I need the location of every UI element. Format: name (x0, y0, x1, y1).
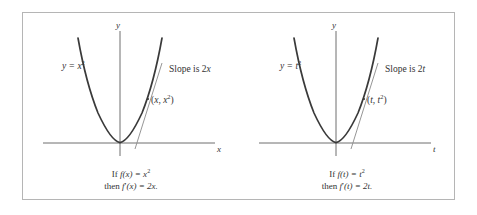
axis-label-horizontal-right: t (433, 145, 436, 154)
tangent-line-left (135, 63, 162, 149)
caption-left-line1-prefix: If (112, 169, 120, 179)
caption-right-line2: then f′(t) = 2t. (239, 180, 455, 192)
caption-left-line2-rest: (x) = 2x. (126, 181, 157, 191)
point-label-right-close: ) (383, 95, 386, 105)
slope-annotation-left-variable: x (206, 64, 210, 74)
caption-left-line1-arg: (x) = x (123, 169, 148, 179)
caption-left-line1: If f(x) = x2 (23, 165, 239, 180)
caption-right-line1-prefix: If (329, 169, 337, 179)
panel-right: y t y = t2 Slope is 2t (t, t2) If f(t) =… (239, 13, 455, 199)
slope-annotation-right-prefix: Slope is 2 (385, 64, 422, 74)
axis-label-vertical-right: y (332, 21, 336, 30)
caption-right-line2-rest: (t) = 2t. (344, 181, 372, 191)
caption-right-line1: If f(t) = t2 (239, 165, 455, 180)
slope-annotation-left: Slope is 2x (169, 65, 211, 75)
point-label-right: (t, t2) (367, 94, 387, 106)
curve-label-left-base: y = x (62, 61, 82, 71)
slope-annotation-right-variable: t (422, 64, 425, 74)
slope-annotation-left-prefix: Slope is 2 (169, 64, 206, 74)
slope-annotation-right: Slope is 2t (385, 65, 425, 75)
caption-left: If f(x) = x2 then f′(x) = 2x. (23, 165, 239, 192)
tangent-point-marker-right (363, 98, 365, 100)
figure-root: y x y = x2 Slope is 2x (x, x2) If f(x) =… (0, 0, 477, 215)
figure-frame: y x y = x2 Slope is 2x (x, x2) If f(x) =… (22, 12, 455, 200)
curve-label-left-exponent: 2 (82, 59, 85, 66)
axis-label-horizontal-left: x (217, 145, 221, 154)
caption-left-line2: then f′(x) = 2x. (23, 180, 239, 192)
panel-left: y x y = x2 Slope is 2x (x, x2) If f(x) =… (23, 13, 239, 199)
caption-left-line2-prefix: then (104, 181, 122, 191)
caption-right: If f(t) = t2 then f′(t) = 2t. (239, 165, 455, 192)
axis-label-vertical-left: y (116, 21, 120, 30)
caption-left-line1-exponent: 2 (147, 168, 150, 174)
curve-label-right: y = t2 (280, 60, 301, 72)
caption-right-line1-exponent: 2 (362, 168, 365, 174)
point-label-left-close: ) (171, 95, 174, 105)
tangent-point-marker-left (147, 98, 149, 100)
curve-label-right-exponent: 2 (298, 59, 301, 66)
caption-right-line2-prefix: then (322, 181, 340, 191)
curve-label-right-base: y = t (280, 61, 298, 71)
point-label-left: (x, x2) (151, 94, 174, 106)
tangent-line-right (351, 63, 378, 149)
curve-label-left: y = x2 (62, 60, 85, 72)
caption-right-line1-arg: (t) = t (340, 169, 362, 179)
